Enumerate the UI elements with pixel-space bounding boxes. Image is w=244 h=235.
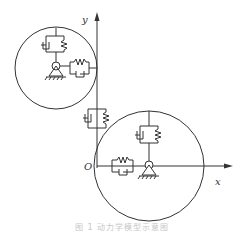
y-axis bbox=[95, 12, 100, 168]
upper-horizontal-spring-damper bbox=[60, 59, 97, 77]
x-axis-arrow-icon bbox=[224, 164, 233, 169]
figure-caption: 图 1 动力学模型示意图 bbox=[0, 221, 244, 232]
upper-vertical-spring-damper bbox=[41, 28, 67, 62]
upper-disk-circle bbox=[15, 27, 97, 109]
origin-label: O bbox=[84, 161, 92, 172]
y-axis-arrow-icon bbox=[95, 12, 100, 21]
x-axis-label: x bbox=[215, 176, 221, 187]
upper-pivot-support bbox=[45, 62, 66, 80]
axis-spring-damper bbox=[83, 109, 109, 128]
x-axis bbox=[97, 164, 233, 169]
y-axis-label: y bbox=[81, 14, 88, 25]
lower-vertical-spring-damper bbox=[135, 111, 161, 162]
lower-pivot-support bbox=[138, 161, 159, 179]
dynamics-model-diagram: y x O bbox=[0, 0, 244, 235]
